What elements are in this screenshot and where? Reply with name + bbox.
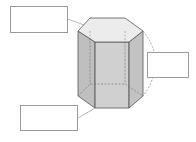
leader-line-top-left [68,19,84,25]
right-face [129,31,143,108]
diagram-canvas [0,0,196,142]
leader-line-bottom-left [78,108,95,118]
left-face [78,31,95,108]
front-face [95,42,129,108]
label-box-top-left[interactable] [10,6,68,33]
label-box-right[interactable] [147,52,189,78]
label-box-bottom-left[interactable] [20,105,78,131]
